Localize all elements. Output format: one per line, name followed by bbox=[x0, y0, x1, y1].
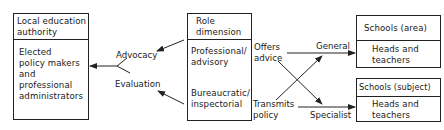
role-upper: Professional/ advisory bbox=[191, 46, 247, 67]
schools-subject-box: Schools (subject) Heads and teachers bbox=[356, 78, 441, 122]
role-dimension-box: Role dimension Professional/ advisory Bu… bbox=[187, 13, 252, 121]
specialist-label: Specialist bbox=[310, 110, 351, 121]
lea-box: Local education authority Elected policy… bbox=[13, 13, 89, 120]
lea-body: Elected policy makers and professional a… bbox=[19, 47, 83, 102]
lea-title: Local education authority bbox=[17, 16, 86, 37]
schools-area-header: Schools (area) bbox=[357, 16, 440, 41]
role-lower: Bureaucratic/ inspectorial bbox=[191, 88, 250, 109]
general-label: General bbox=[316, 41, 350, 52]
offers-advice-label: Offers advice bbox=[254, 42, 282, 63]
lea-box-header: Local education authority bbox=[14, 14, 88, 40]
schools-subject-header: Schools (subject) bbox=[357, 79, 440, 97]
schools-subject-body: Heads and teachers bbox=[372, 99, 419, 120]
advocacy-label: Advocacy bbox=[116, 50, 157, 61]
schools-subject-title: Schools (subject) bbox=[359, 82, 431, 93]
evaluation-label: Evaluation bbox=[115, 79, 160, 90]
role-box-header: Role dimension bbox=[188, 14, 251, 40]
schools-area-title: Schools (area) bbox=[364, 23, 427, 34]
role-title: Role dimension bbox=[196, 16, 241, 37]
schools-area-box: Schools (area) Heads and teachers bbox=[356, 15, 441, 68]
schools-area-body: Heads and teachers bbox=[372, 44, 419, 65]
transmits-policy-label: Transmits policy bbox=[253, 99, 294, 120]
